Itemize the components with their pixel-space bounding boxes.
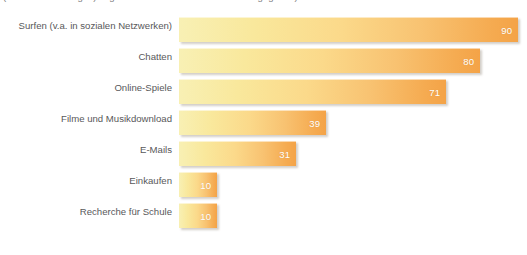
bar-track: 71 (179, 79, 527, 103)
bar: 71 (179, 79, 446, 104)
bar-row: E-Mails 31 (0, 138, 527, 169)
bar-track: 80 (179, 48, 527, 72)
bar-category-label: Surfen (v.a. in sozialen Netzwerken) (19, 14, 172, 38)
bar-value-label: 39 (309, 111, 320, 135)
bar-category-label: Filme und Musikdownload (61, 107, 172, 131)
bar: 80 (179, 48, 480, 73)
bar-category-label: Online-Spiele (114, 76, 172, 100)
bar-track: 31 (179, 141, 527, 165)
bar: 10 (179, 203, 217, 228)
bar-track: 90 (179, 17, 527, 41)
bar-category-label: Chatten (138, 45, 172, 69)
bar-row: Surfen (v.a. in sozialen Netzwerken) 90 (0, 14, 527, 45)
bar-row: Recherche für Schule 10 (0, 200, 527, 231)
bar-category-label: Recherche für Schule (80, 200, 172, 224)
bar: 10 (179, 172, 217, 197)
bar-row: Filme und Musikdownload 39 (0, 107, 527, 138)
bar-category-label: E-Mails (140, 138, 172, 162)
bar-track: 10 (179, 203, 527, 227)
bar: 39 (179, 110, 326, 135)
bar-value-label: 10 (200, 204, 211, 228)
clipped-caption: (Mehrfachnennungen) Jugendliche haben di… (0, 0, 527, 7)
bar-category-label: Einkaufen (129, 169, 172, 193)
bar-chart: (Mehrfachnennungen) Jugendliche haben di… (0, 0, 527, 255)
bar-row: Einkaufen 10 (0, 169, 527, 200)
bar: 31 (179, 141, 296, 166)
bar-value-label: 71 (429, 80, 440, 104)
caption-text: (Mehrfachnennungen) Jugendliche haben di… (3, 0, 298, 2)
bar-value-label: 10 (200, 173, 211, 197)
bar: 90 (179, 17, 518, 42)
bar-track: 39 (179, 110, 527, 134)
bar-track: 10 (179, 172, 527, 196)
bar-value-label: 80 (463, 49, 474, 73)
bar-rows: Surfen (v.a. in sozialen Netzwerken) 90 … (0, 14, 527, 231)
bar-row: Online-Spiele 71 (0, 76, 527, 107)
bar-row: Chatten 80 (0, 45, 527, 76)
bar-value-label: 31 (279, 142, 290, 166)
bar-value-label: 90 (501, 18, 512, 42)
